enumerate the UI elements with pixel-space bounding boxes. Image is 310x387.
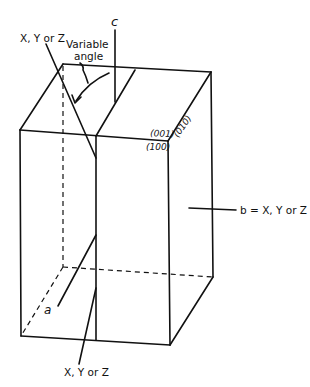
bottom-axis-label: X, Y or Z <box>64 366 109 378</box>
crystal-block-diagram: c X, Y or Z Variable angle (001) (100) (… <box>0 0 310 387</box>
b-axis-label: b = X, Y or Z <box>240 204 307 216</box>
a-axis-label: a <box>44 303 51 317</box>
bottom-right-edge <box>170 277 213 345</box>
top-back-edge <box>63 64 211 72</box>
c-axis-label: c <box>111 14 118 29</box>
face-010-label: (010) <box>171 114 193 140</box>
variable-angle-label-2: angle <box>74 50 103 62</box>
back-right-edge <box>211 72 213 277</box>
top-left-edge <box>20 64 63 130</box>
variable-angle-label-1: Variable <box>66 38 109 50</box>
bottom-axis-line <box>79 288 96 364</box>
b-axis-leader <box>189 208 236 210</box>
hidden-bottom-back-edge <box>63 267 213 277</box>
hidden-bottom-left-edge <box>21 267 63 336</box>
front-left-edge <box>20 130 21 336</box>
front-right-edge <box>168 141 170 345</box>
a-axis-line <box>58 235 96 306</box>
top-axis-label: X, Y or Z <box>20 32 65 44</box>
top-front-edge <box>20 130 168 141</box>
face-100-label: (100) <box>146 142 170 152</box>
